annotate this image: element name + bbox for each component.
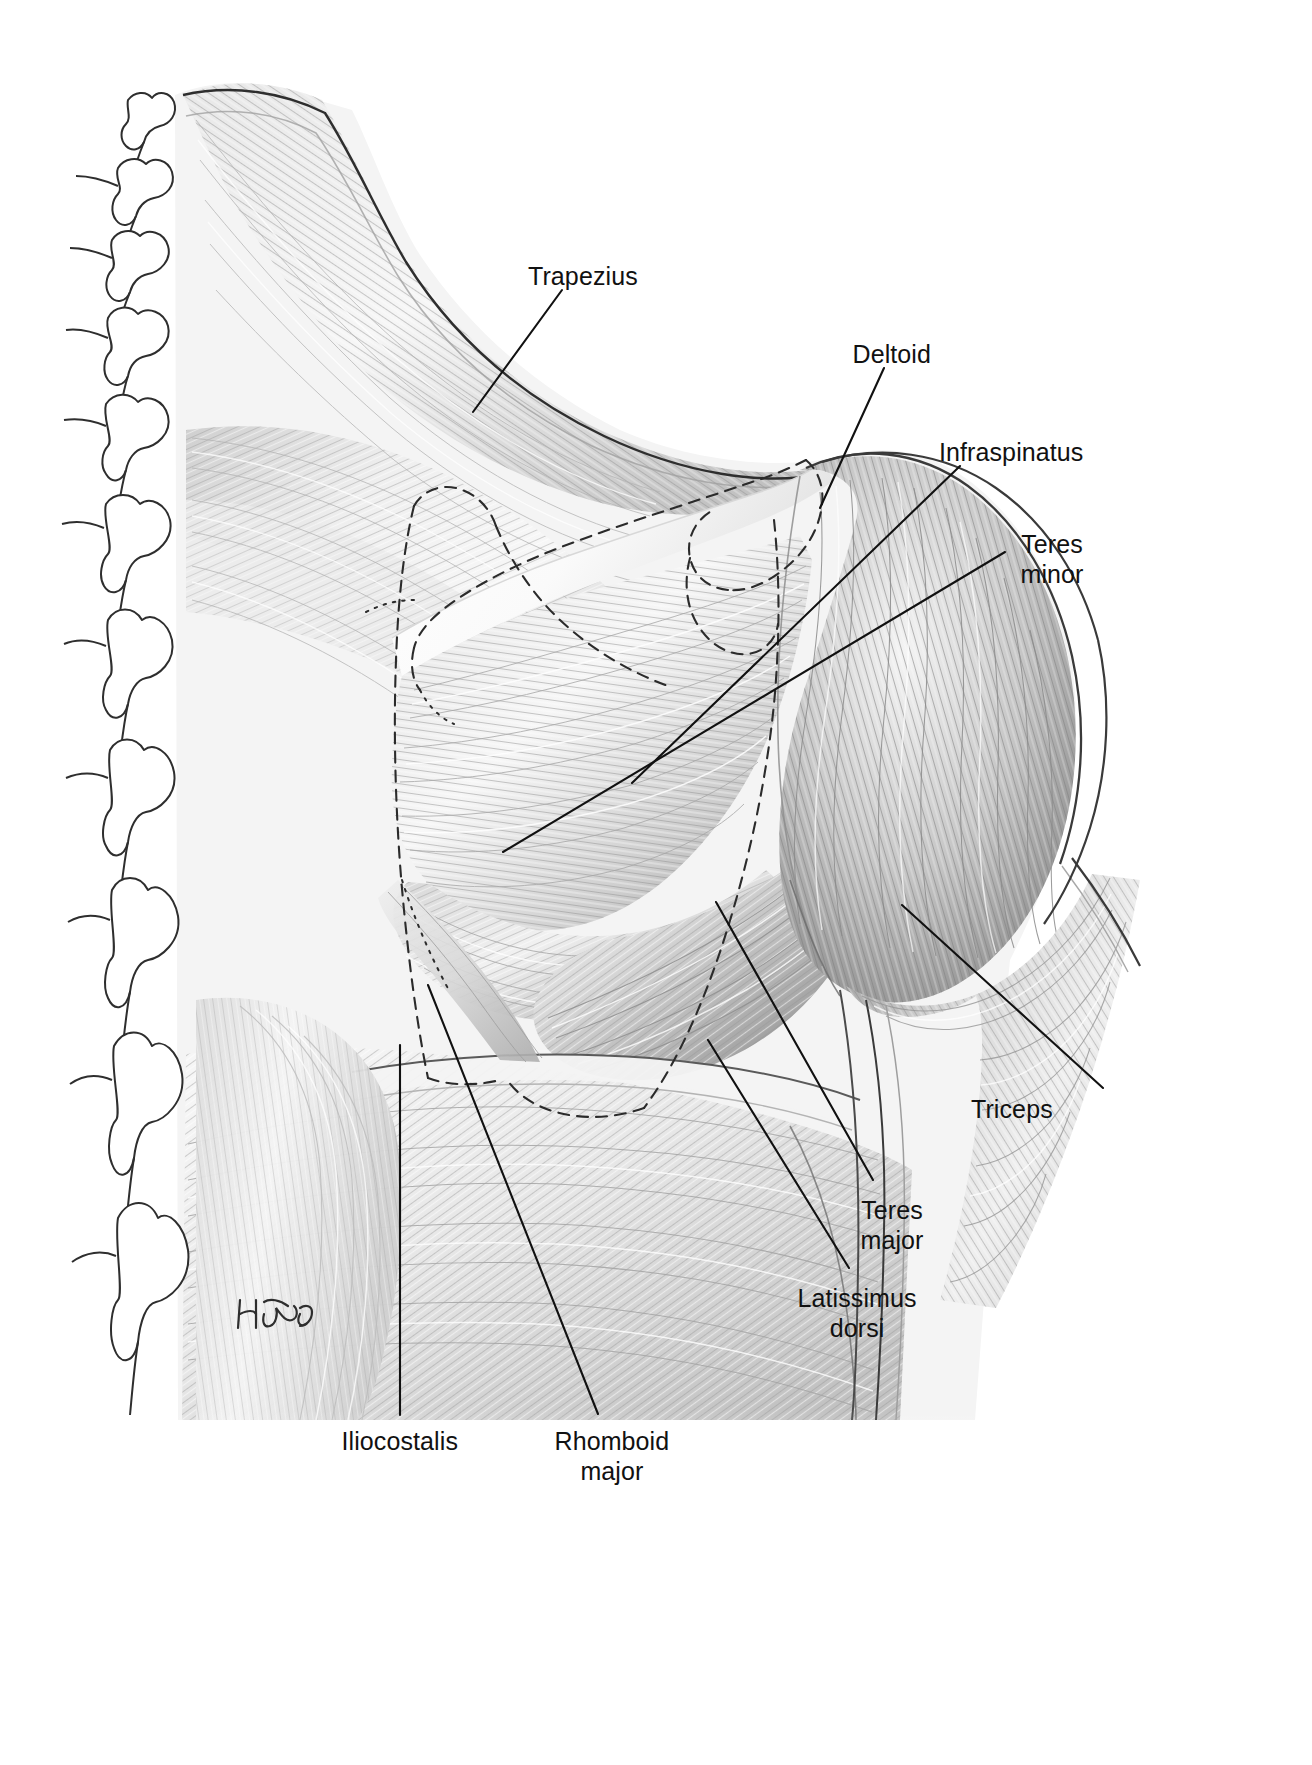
label-trapezius: Trapezius bbox=[528, 262, 638, 292]
label-deltoid-line-1: Deltoid bbox=[853, 340, 932, 370]
label-latissimus-dorsi-line-1: Latissimus bbox=[798, 1284, 917, 1314]
label-iliocostalis-line-1: Iliocostalis bbox=[342, 1427, 459, 1457]
label-latissimus-dorsi: Latissimusdorsi bbox=[798, 1284, 917, 1343]
label-rhomboid-major-line-2: major bbox=[555, 1457, 670, 1487]
label-teres-minor: Teresminor bbox=[1021, 530, 1084, 589]
label-teres-minor-line-1: Teres bbox=[1021, 530, 1084, 560]
label-teres-minor-line-2: minor bbox=[1021, 560, 1084, 590]
label-rhomboid-major: Rhomboidmajor bbox=[555, 1427, 670, 1486]
label-deltoid: Deltoid bbox=[853, 340, 932, 370]
label-triceps-line-1: Triceps bbox=[971, 1095, 1053, 1125]
anatomical-illustration: TrapeziusDeltoidInfraspinatusTeresminorT… bbox=[0, 0, 1312, 1765]
label-rhomboid-major-line-1: Rhomboid bbox=[555, 1427, 670, 1457]
label-teres-major: Teresmajor bbox=[861, 1196, 924, 1255]
label-teres-major-line-2: major bbox=[861, 1226, 924, 1256]
label-infraspinatus-line-1: Infraspinatus bbox=[939, 438, 1083, 468]
label-teres-major-line-1: Teres bbox=[861, 1196, 924, 1226]
label-iliocostalis: Iliocostalis bbox=[342, 1427, 459, 1457]
label-infraspinatus: Infraspinatus bbox=[939, 438, 1083, 468]
label-trapezius-line-1: Trapezius bbox=[528, 262, 638, 292]
anatomy-drawing bbox=[0, 0, 1312, 1765]
label-latissimus-dorsi-line-2: dorsi bbox=[798, 1314, 917, 1344]
label-triceps: Triceps bbox=[971, 1095, 1053, 1125]
